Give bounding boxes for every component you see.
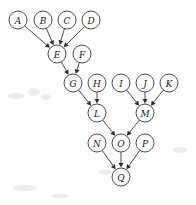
- arrowhead-icon: [126, 164, 131, 169]
- arrowhead-icon: [86, 101, 91, 106]
- edge-c-to-e: [59, 29, 65, 45]
- node-c[interactable]: C: [58, 11, 76, 29]
- arrowhead-icon: [127, 131, 132, 136]
- edge-a-to-e: [25, 26, 50, 48]
- edge-line: [77, 63, 79, 70]
- edge-j-to-m: [143, 92, 148, 104]
- node-j[interactable]: J: [136, 74, 154, 92]
- node-h[interactable]: H: [88, 74, 106, 92]
- edge-i-to-m: [127, 90, 140, 106]
- edge-line: [61, 29, 65, 41]
- edge-e-to-g: [61, 62, 68, 75]
- node-a[interactable]: A: [9, 11, 27, 29]
- node-label: O: [117, 139, 125, 149]
- node-label: F: [78, 50, 86, 60]
- edge-f-to-g: [75, 63, 80, 74]
- arrowhead-icon: [111, 164, 116, 169]
- node-e[interactable]: E: [48, 45, 66, 63]
- node-label: D: [86, 16, 94, 26]
- edge-line: [46, 28, 51, 41]
- node-label: N: [92, 139, 102, 149]
- arrowhead-icon: [143, 99, 148, 104]
- background-speck: [41, 94, 51, 100]
- arrowhead-icon: [75, 69, 80, 74]
- edge-line: [103, 120, 113, 132]
- diagram-canvas: ABCDEFGHIJKLMNOPQ: [0, 0, 196, 205]
- node-g[interactable]: G: [64, 74, 82, 92]
- arrowhead-icon: [110, 131, 115, 136]
- node-label: Q: [117, 173, 125, 183]
- edge-g-to-l: [79, 90, 92, 106]
- background-speck: [28, 88, 40, 96]
- arrowhead-icon: [95, 99, 100, 104]
- edge-l-to-o: [103, 120, 116, 136]
- background-speck: [13, 185, 37, 191]
- node-p[interactable]: P: [136, 134, 154, 152]
- node-label: L: [93, 109, 100, 119]
- edge-p-to-q: [126, 150, 139, 169]
- edge-m-to-o: [127, 120, 140, 136]
- node-label: C: [64, 16, 71, 26]
- edge-o-to-q: [119, 152, 124, 168]
- node-label: G: [69, 79, 76, 89]
- node-b[interactable]: B: [34, 11, 52, 29]
- background-speck: [99, 169, 111, 175]
- edge-line: [127, 90, 137, 102]
- edge-line: [79, 90, 89, 102]
- dag-graph: ABCDEFGHIJKLMNOPQ: [0, 0, 196, 205]
- node-l[interactable]: L: [88, 104, 106, 122]
- node-label: M: [139, 109, 150, 119]
- background-speck: [7, 93, 25, 99]
- edge-h-to-l: [95, 92, 100, 104]
- node-o[interactable]: O: [112, 134, 130, 152]
- background-speck: [173, 147, 187, 153]
- node-f[interactable]: F: [73, 45, 91, 63]
- edge-n-to-q: [102, 150, 115, 169]
- node-layer: ABCDEFGHIJKLMNOPQ: [9, 11, 178, 186]
- node-label: B: [39, 16, 47, 26]
- node-n[interactable]: N: [88, 134, 106, 152]
- node-k[interactable]: K: [160, 74, 178, 92]
- node-d[interactable]: D: [82, 11, 100, 29]
- background-speck: [52, 194, 68, 198]
- edge-line: [154, 90, 164, 102]
- node-label: K: [165, 79, 174, 89]
- edge-line: [102, 150, 113, 165]
- node-label: A: [14, 16, 22, 26]
- node-label: H: [92, 79, 101, 89]
- edge-d-to-e: [64, 26, 85, 47]
- arrowhead-icon: [151, 101, 156, 106]
- edge-b-to-e: [46, 28, 54, 45]
- node-q[interactable]: Q: [112, 168, 130, 186]
- node-label: I: [118, 79, 123, 89]
- node-label: P: [141, 139, 149, 149]
- node-i[interactable]: I: [112, 74, 130, 92]
- arrowhead-icon: [119, 163, 124, 168]
- edge-line: [61, 62, 66, 71]
- edge-line: [130, 120, 140, 132]
- edge-line: [129, 150, 140, 165]
- arrowhead-icon: [59, 40, 64, 45]
- edge-k-to-m: [151, 90, 164, 106]
- node-label: E: [53, 50, 61, 60]
- node-m[interactable]: M: [136, 104, 154, 122]
- arrowhead-icon: [134, 101, 139, 106]
